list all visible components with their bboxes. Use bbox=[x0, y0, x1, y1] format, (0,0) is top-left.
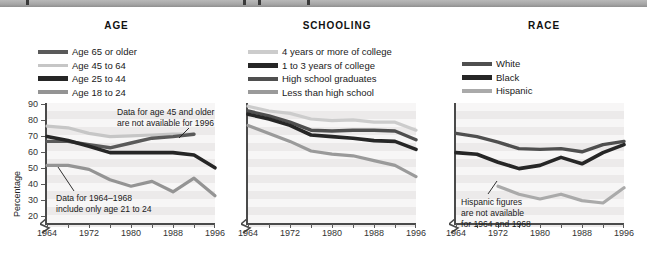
annotation-race-line2: are not available bbox=[461, 208, 524, 220]
legend-label: Age 18 to 24 bbox=[72, 87, 126, 98]
legend-swatch bbox=[248, 50, 278, 54]
annotation-leader-line bbox=[178, 128, 194, 140]
legend-item: High school graduates bbox=[248, 72, 392, 86]
legend-age: Age 65 or older Age 45 to 64 Age 25 to 4… bbox=[38, 45, 137, 99]
y-axis-title: Percentage bbox=[12, 171, 22, 217]
panel-title-schooling: SCHOOLING bbox=[233, 20, 441, 31]
series-lines-schooling bbox=[248, 103, 416, 227]
legend-label: Age 65 or older bbox=[72, 46, 137, 57]
annotation-age-top-line2: are not available for 1996 bbox=[117, 118, 214, 130]
legend-item: Hispanic bbox=[462, 84, 532, 98]
x-tick-label: 1996 bbox=[606, 229, 642, 238]
annotation-leader-line bbox=[58, 167, 80, 193]
legend-swatch bbox=[248, 77, 278, 82]
x-tick-label: 1964 bbox=[230, 229, 266, 238]
panel-schooling: SCHOOLING 4 years or more of college 1 t… bbox=[233, 7, 441, 263]
x-tick-label: 1972 bbox=[71, 229, 107, 238]
x-tick-label: 1996 bbox=[197, 229, 233, 238]
legend-swatch bbox=[462, 89, 492, 93]
x-tick-label: 1996 bbox=[398, 229, 434, 238]
x-tick-label: 1988 bbox=[155, 229, 191, 238]
legend-item: Age 65 or older bbox=[38, 45, 137, 59]
legend-label: 4 years or more of college bbox=[282, 46, 392, 57]
y-tick-label: 70 bbox=[16, 132, 38, 141]
panel-title-age: AGE bbox=[0, 20, 233, 31]
legend-swatch bbox=[38, 90, 68, 94]
page-top-band bbox=[0, 0, 647, 7]
legend-item: Age 18 to 24 bbox=[38, 86, 137, 100]
y-tick-label: 80 bbox=[16, 116, 38, 125]
x-tick-label: 1972 bbox=[272, 229, 308, 238]
legend-item: Black bbox=[462, 71, 532, 85]
legend-race: White Black Hispanic bbox=[462, 57, 532, 98]
legend-swatch bbox=[248, 90, 278, 94]
y-tick-label: 50 bbox=[16, 164, 38, 173]
legend-item: White bbox=[462, 57, 532, 71]
y-tick-label: 90 bbox=[16, 100, 38, 109]
legend-swatch bbox=[38, 50, 68, 55]
y-tick-label: 30 bbox=[16, 196, 38, 205]
panel-race: RACE White Black Hispanic bbox=[441, 7, 647, 263]
x-tick-label: 1988 bbox=[356, 229, 392, 238]
y-tick-label: 60 bbox=[16, 148, 38, 157]
x-tick-label: 1988 bbox=[564, 229, 600, 238]
plot-area-schooling bbox=[248, 103, 416, 227]
x-tick-label: 1980 bbox=[113, 229, 149, 238]
legend-swatch bbox=[38, 76, 68, 81]
annotation-age-bottom-line2: include only age 21 to 24 bbox=[56, 204, 152, 216]
annotation-leader-line bbox=[488, 181, 502, 195]
panel-title-race: RACE bbox=[441, 20, 647, 31]
legend-swatch bbox=[462, 62, 492, 67]
annotation-age-top-line1: Data for age 45 and older bbox=[117, 107, 214, 119]
annotation-race-line1: Hispanic figures bbox=[461, 197, 522, 209]
legend-label: Black bbox=[496, 72, 519, 83]
annotation-race-line3: for 1964 and 1968 bbox=[461, 219, 531, 231]
legend-label: Less than high school bbox=[282, 87, 374, 98]
x-tick-label: 1980 bbox=[314, 229, 350, 238]
legend-item: Less than high school bbox=[248, 86, 392, 100]
y-tick-label: 20 bbox=[16, 212, 38, 221]
panel-age: AGE Age 65 or older Age 45 to 64 Age 25 … bbox=[0, 7, 233, 263]
legend-label: White bbox=[496, 58, 520, 69]
legend-label: Age 25 to 44 bbox=[72, 73, 126, 84]
figure-root: AGE Age 65 or older Age 45 to 64 Age 25 … bbox=[0, 0, 647, 263]
legend-schooling: 4 years or more of college 1 to 3 years … bbox=[248, 45, 392, 99]
legend-label: 1 to 3 years of college bbox=[282, 60, 375, 71]
legend-item: 1 to 3 years of college bbox=[248, 59, 392, 73]
y-tick-label: 40 bbox=[16, 180, 38, 189]
x-tick-label: 1964 bbox=[29, 229, 65, 238]
legend-swatch bbox=[462, 75, 492, 80]
legend-swatch bbox=[38, 64, 68, 68]
legend-swatch bbox=[248, 63, 278, 68]
legend-item: Age 45 to 64 bbox=[38, 59, 137, 73]
annotation-age-bottom-line1: Data for 1964–1968 bbox=[56, 193, 132, 205]
legend-item: 4 years or more of college bbox=[248, 45, 392, 59]
legend-label: Hispanic bbox=[496, 85, 532, 96]
legend-label: High school graduates bbox=[282, 73, 377, 84]
legend-item: Age 25 to 44 bbox=[38, 72, 137, 86]
legend-label: Age 45 to 64 bbox=[72, 60, 126, 71]
